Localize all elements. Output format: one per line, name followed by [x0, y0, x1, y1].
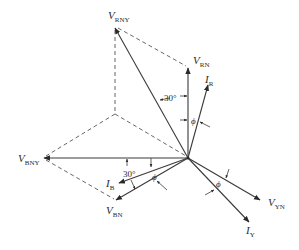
angle-label-upper-30: 30°: [164, 93, 177, 103]
origin-point: [187, 157, 190, 160]
dashed-vertex-to-vbny: [46, 114, 115, 156]
label-i-r: IR: [204, 73, 214, 88]
lower-30-arrow-down: [131, 180, 135, 189]
angle-label-phi-y: ϕ: [216, 179, 221, 189]
dashed-vbny-to-vbn: [46, 160, 114, 199]
phasor-v-rny: [115, 28, 188, 158]
label-v-rny: VRNY: [108, 9, 130, 24]
label-i-b: IB: [105, 177, 115, 192]
angle-label-lower-30: 30°: [123, 169, 136, 179]
phasors: [44, 28, 260, 222]
phasor-v-yn: [188, 158, 260, 200]
label-v-rn: VRN: [193, 54, 209, 69]
phasor-i-y: [188, 158, 249, 222]
label-v-yn: VYN: [268, 196, 285, 211]
phi-y-arrow-lower: [205, 190, 214, 195]
phi-b-arrow-up: [157, 181, 167, 190]
label-v-bny: VBNY: [18, 152, 40, 167]
dashed-vrny-to-vrn: [118, 28, 186, 66]
phi-r-arrow-right: [200, 122, 210, 127]
phi-y-arrow-upper: [226, 169, 229, 178]
label-v-bn: VBN: [106, 204, 122, 219]
label-i-y: IY: [245, 224, 255, 239]
angle-label-phi-b: ϕ: [152, 172, 157, 182]
angle-markers: [127, 96, 229, 195]
phasor-diagram: 30° ϕ 30° ϕ ϕ VRNY VRN IR VBNY IB VBN VY…: [0, 0, 299, 250]
angle-label-phi-r: ϕ: [191, 116, 196, 126]
construction-lines: [46, 28, 186, 199]
